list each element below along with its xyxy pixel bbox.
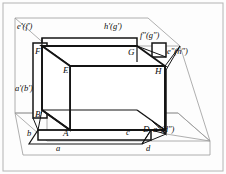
profile-projection-top [152,43,166,57]
label-vertex-F: F [35,47,41,56]
label-fg-double-prime: f"(g") [140,31,159,40]
label-hg-prime: h'(g') [104,22,122,31]
label-ad-double-prime: a"(d") [153,125,174,134]
horizontal-projection-bottom [38,130,151,140]
projection-figure: e'(f') h'(g') f"(g") e"(h") a'(b') a"(d"… [0,0,226,174]
plane-w-right-edge [180,46,210,141]
label-vertex-B: B [35,110,41,119]
label-vertex-H: H [155,67,162,76]
label-point-c: c [126,128,130,137]
label-vertex-G: G [128,48,135,57]
label-eh-double-prime: e"(h") [167,47,188,56]
label-vertex-E: E [63,66,69,75]
ray-ab-to-horizontal [33,118,38,130]
label-point-a: a [56,144,60,153]
label-ef-prime: e'(f') [17,22,32,31]
label-ab-prime: a'(b') [15,84,33,93]
vertical-projection-top [42,38,137,46]
label-point-b: b [27,129,31,138]
label-point-d: d [146,144,150,153]
plane-w-lower-edge [178,113,210,155]
label-vertex-D: D [143,125,150,134]
label-vertex-A: A [63,129,69,138]
